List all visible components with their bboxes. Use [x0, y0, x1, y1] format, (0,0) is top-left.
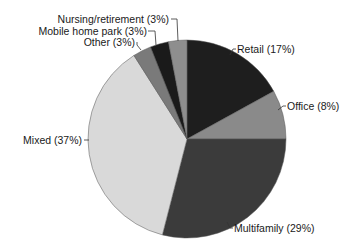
label-mixed: Mixed (37%) [23, 134, 82, 146]
label-retail: Retail (17%) [237, 43, 295, 55]
label-nursing-retirement: Nursing/retirement (3%) [58, 13, 169, 25]
label-office: Office (8%) [287, 100, 339, 112]
pie-slices [88, 40, 286, 238]
label-other: Other (3%) [84, 36, 135, 48]
pie-chart: Retail (17%) Office (8%) Multifamily (29… [0, 0, 361, 246]
label-mobile-home-park: Mobile home park (3%) [38, 25, 147, 37]
label-multifamily: Multifamily (29%) [234, 222, 315, 234]
